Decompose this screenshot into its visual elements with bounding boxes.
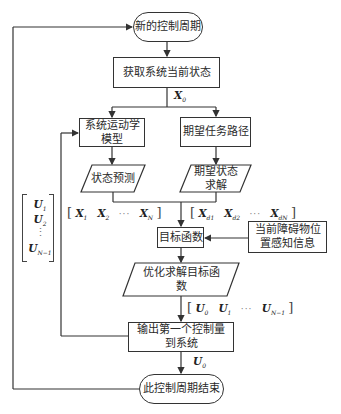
start-label: 新的控制周期 [135,20,201,34]
vector-entry: U1 [28,198,52,212]
obstacle-info-box: 当前障碍物位置感知信息 [248,221,327,253]
optimize-label: 优化求解目标函数 [138,266,224,294]
x0-label: X0 [174,89,186,103]
desired-path-box: 期望任务路径 [180,117,251,147]
obstacle-info-label: 当前障碍物位置感知信息 [252,223,323,251]
output-control-box: 输出第一个控制量到系统 [128,322,234,352]
objective-function-label: 目标函数 [159,231,203,245]
u0-label: U0 [193,355,206,369]
desired-state-label: 期望状态求解 [190,165,242,193]
predicted-states-vector: [ X1 X2 ··· XN ] [67,205,162,221]
output-control-label: 输出第一个控制量到系统 [132,323,230,351]
get-state-box: 获取系统当前状态 [113,57,220,88]
desired-states-vector: [ Xd1 Xd2 ··· XdN ] [190,205,296,221]
optimize-node: 优化求解目标函数 [138,263,224,296]
state-prediction-node: 状态预测 [90,165,136,192]
desired-state-node: 期望状态求解 [190,165,242,192]
start-terminal: 新的控制周期 [133,12,203,42]
end-terminal: 此控制周期结束 [139,374,224,404]
desired-path-label: 期望任务路径 [183,125,249,139]
kinematic-model-label: 系统运动学模型 [84,119,140,147]
objective-function-box: 目标函数 [157,227,204,248]
kinematic-model-box: 系统运动学模型 [79,118,145,147]
feedback-column-vector: U1 U2 ⋮ UN−1 [22,194,54,260]
control-sequence-vector: [ U0 U1 ··· UN−1 ] [187,300,293,316]
vector-entry: U2 [28,213,52,227]
state-prediction-label: 状态预测 [91,172,135,186]
get-state-label: 获取系统当前状态 [123,66,211,80]
end-label: 此控制周期结束 [143,382,220,396]
vector-vdots: ⋮ [28,226,52,238]
vector-entry: UN−1 [26,242,54,256]
